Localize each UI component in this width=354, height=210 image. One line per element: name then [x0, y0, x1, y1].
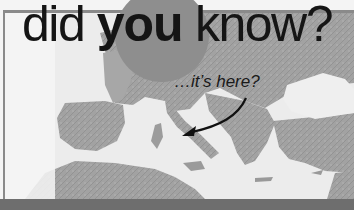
headline-word-you: you: [97, 0, 183, 52]
banner: did you know? …it’s here?: [0, 0, 354, 210]
headline-word-did: did: [22, 0, 84, 52]
headline-word-know: know?: [195, 0, 332, 52]
frame-bottom-band: [0, 199, 354, 210]
callout-text: …it’s here?: [174, 72, 260, 92]
headline: did you know?: [0, 0, 354, 54]
curved-arrow-icon: [180, 96, 250, 140]
